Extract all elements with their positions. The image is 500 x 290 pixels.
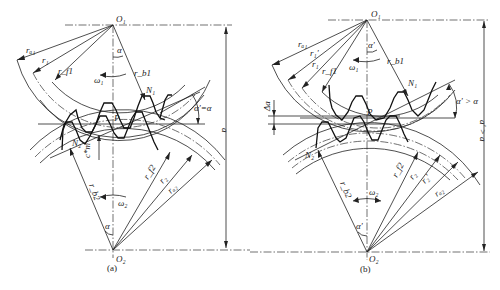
label-O2: O₂ (369, 254, 379, 264)
label-omega2: ω₂ (369, 187, 378, 197)
label-alpha-bottom: α' (356, 221, 364, 231)
label-pressure-angle: α'=α (194, 103, 212, 113)
label-O1: O₁ (371, 9, 381, 19)
center-distance-label: a (220, 128, 230, 133)
panel-b: a' > a Δa (250, 9, 490, 274)
label-rb2: r_b2 (87, 182, 102, 202)
label-rb1: r_b1 (387, 56, 404, 66)
gear1-teeth (329, 82, 436, 120)
label-r2: r₂ (407, 170, 419, 181)
label-r2-prime: r₂' (419, 171, 433, 185)
label-N1: N₁ (145, 85, 155, 95)
label-rf1: r_f1 (322, 66, 337, 76)
radius-ra2 (113, 160, 212, 250)
label-rf2: r_f2 (390, 161, 406, 179)
label-ra2: rₐ₂ (165, 182, 179, 196)
center-distance-label: a' > a (478, 120, 488, 142)
label-N2: N₂ (304, 150, 314, 160)
label-omega1: ω₁ (349, 62, 358, 72)
caption-b: (b) (360, 264, 371, 274)
label-ra1: rₐ₁ (298, 39, 307, 49)
base-circle-1 (40, 80, 210, 141)
label-P: P (366, 107, 373, 117)
label-P: P (113, 113, 120, 123)
gear1-tooth-right (160, 95, 172, 118)
label-alpha-bottom: α (105, 221, 110, 231)
label-clearance: c*m (82, 143, 92, 158)
label-rf2: r_f2 (141, 163, 158, 181)
alpha-arc-top (367, 50, 377, 52)
root-circle-1 (52, 82, 185, 113)
label-N2: N₂ (71, 138, 81, 148)
label-ra1: rₐ₁ (26, 45, 35, 55)
radius-rb2 (70, 148, 113, 250)
label-alpha-top: α' (368, 40, 376, 50)
radius-rb2 (318, 150, 367, 252)
radius-rf2 (367, 152, 418, 252)
label-N1: N₁ (407, 78, 417, 88)
label-O1: O₁ (116, 14, 126, 24)
label-pressure-angle: α' > α (456, 96, 478, 106)
line-of-action (50, 92, 200, 158)
label-r1: r₁ (312, 59, 319, 69)
label-delta-a: Δa (262, 101, 272, 112)
radius-rb1 (113, 25, 145, 100)
label-rb1: r_b1 (134, 68, 151, 78)
alpha-arc-top (113, 56, 123, 57)
panel-a: a (17, 14, 250, 273)
label-r2: r₂ (157, 174, 169, 185)
label-O2: O₂ (116, 254, 126, 264)
radius-ra2 (367, 172, 478, 252)
label-r1-prime: r₁' (310, 48, 320, 58)
label-omega2: ω₂ (118, 198, 127, 208)
label-alpha-top: α (117, 45, 122, 55)
label-rf1: r_f1 (58, 66, 73, 76)
label-omega1: ω₁ (94, 75, 103, 85)
gear-mesh-figure: a (0, 0, 500, 290)
root-circle-2 (40, 128, 215, 170)
label-r1: r₁ (42, 55, 49, 65)
caption-a: (a) (107, 263, 117, 273)
